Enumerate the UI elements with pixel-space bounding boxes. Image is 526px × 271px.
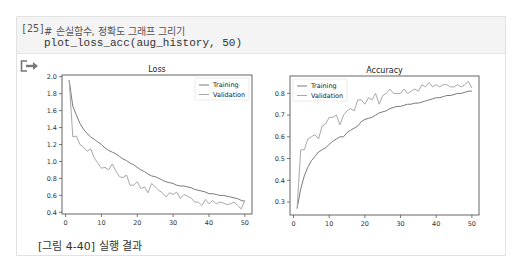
- y-tick-label: 0.3: [275, 198, 285, 206]
- x-tick-label: 40: [432, 220, 440, 228]
- x-tick-label: 30: [396, 220, 404, 228]
- y-tick-label: 0.8: [275, 90, 285, 98]
- x-tick-label: 0: [291, 220, 295, 228]
- legend-label: Training: [310, 82, 337, 90]
- chart-title: Accuracy: [366, 66, 403, 75]
- y-tick-label: 0.7: [275, 111, 285, 119]
- y-tick-label: 0.6: [275, 133, 285, 141]
- y-tick-label: 0.4: [275, 177, 285, 185]
- series-line-training: [297, 91, 472, 208]
- legend-label: Validation: [311, 92, 343, 100]
- y-tick-label: 0.5: [275, 155, 285, 163]
- accuracy-chart: Accuracy010203040500.30.40.50.60.70.8Tra…: [0, 0, 526, 271]
- legend: TrainingValidation: [293, 79, 347, 101]
- x-tick-label: 50: [468, 220, 476, 228]
- x-tick-label: 10: [325, 220, 333, 228]
- x-tick-label: 20: [361, 220, 369, 228]
